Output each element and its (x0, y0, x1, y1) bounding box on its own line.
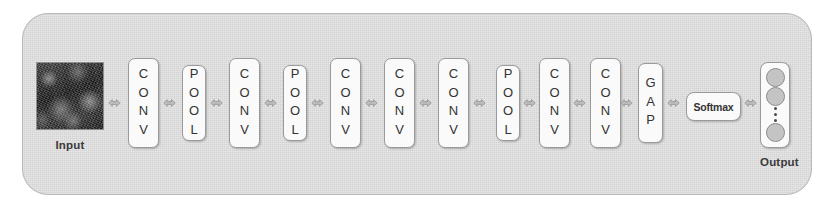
input-label: Input (36, 139, 104, 151)
output-ellipsis-icon (774, 106, 777, 123)
arrow-conv2-pool2-icon (264, 98, 277, 108)
layer-block-label: CONV (137, 66, 150, 140)
layer-block-label: CONV (599, 66, 612, 140)
arrow-conv1-pool1-icon (163, 98, 176, 108)
layer-block-label: POOL (502, 66, 515, 140)
layer-block-label: CONV (393, 66, 406, 140)
output-node-3 (766, 123, 785, 142)
layer-block-label: POOL (289, 66, 302, 140)
ellipsis-dot (774, 119, 777, 122)
output-node-1 (766, 68, 785, 87)
layer-block-label: CONV (238, 66, 251, 140)
arrow-conv5-pool3-icon (473, 98, 486, 108)
layer-block-conv-3: CONV (330, 58, 361, 148)
layer-block-conv-6: CONV (539, 58, 570, 148)
ellipsis-dot (774, 113, 777, 116)
layer-block-label: POOL (188, 66, 201, 140)
arrow-input-conv1-icon (108, 98, 121, 108)
arrow-pool1-conv2-icon (210, 98, 223, 108)
arrow-softmax-output-icon (744, 98, 757, 108)
output-group: Output (760, 62, 799, 168)
layer-block-pool-3: POOL (496, 65, 520, 141)
layer-block-conv-2: CONV (229, 58, 260, 148)
cnn-architecture-diagram: Input CONVPOOLCONVPOOLCONVCONVCONVPOOLCO… (0, 0, 831, 218)
layer-block-conv-4: CONV (384, 58, 415, 148)
arrow-conv3-conv4-icon (365, 98, 378, 108)
layer-block-conv-1: CONV (128, 58, 159, 148)
input-group: Input (36, 62, 104, 151)
layer-block-label: CONV (447, 66, 460, 140)
layer-block-conv-7: CONV (590, 58, 621, 148)
ellipsis-dot (774, 107, 777, 110)
softmax-block: Softmax (686, 92, 741, 121)
arrow-pool2-conv3-icon (311, 98, 324, 108)
arrow-conv6-conv7-icon (573, 98, 586, 108)
layer-block-pool-1: POOL (182, 65, 206, 141)
softmax-label: Softmax (693, 101, 733, 113)
output-node-2 (766, 87, 785, 106)
layer-block-label: CONV (339, 66, 352, 140)
layer-block-conv-5: CONV (438, 58, 469, 148)
output-node-column (760, 62, 790, 148)
layer-block-pool-2: POOL (283, 65, 307, 141)
layer-block-label: CONV (548, 66, 561, 140)
arrow-conv4-conv5-icon (419, 98, 432, 108)
layer-block-gap-1: GAP (638, 63, 663, 143)
arrow-pool3-conv6-icon (523, 98, 536, 108)
output-label: Output (760, 156, 799, 168)
layer-block-label: GAP (644, 75, 657, 131)
input-image-thumbnail (36, 62, 104, 130)
arrow-gap-softmax-icon (667, 98, 680, 108)
arrow-conv7-gap-icon (620, 98, 633, 108)
